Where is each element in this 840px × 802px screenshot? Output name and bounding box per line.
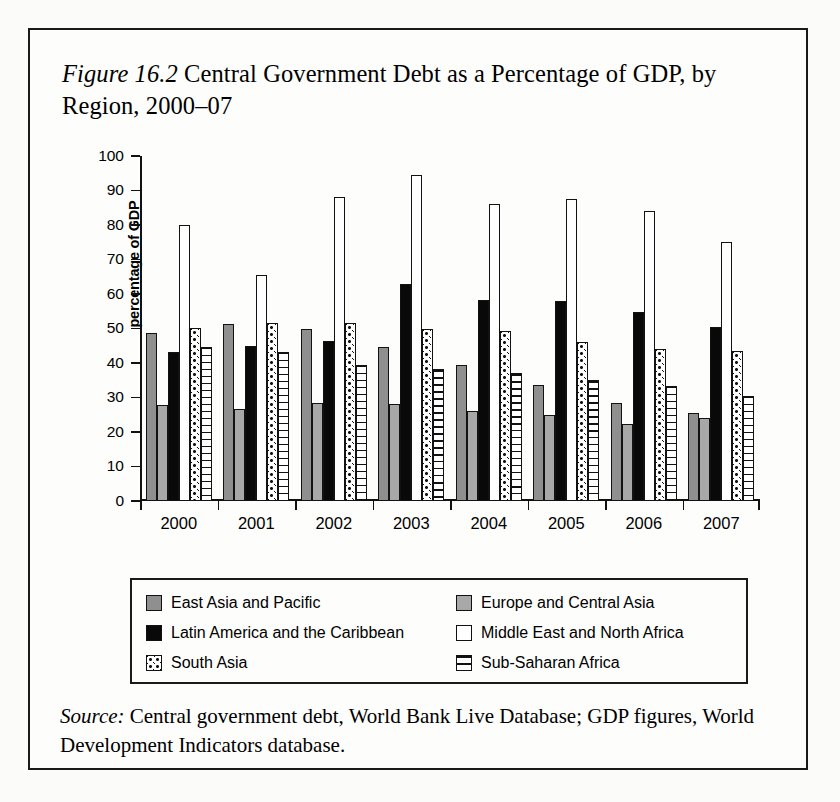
x-axis-tick [140,501,142,510]
y-axis-tick-label: 30 [107,388,124,406]
white-square-icon [456,625,472,641]
y-axis-tick: 30 [131,397,140,399]
figure-number: Figure 16.2 [62,60,178,87]
y-axis-tick: 60 [131,293,140,295]
bar-ssa-2002 [356,365,367,501]
bar-eca-2001 [234,409,245,501]
bar-lac-2003 [400,284,411,501]
legend-item-ssa[interactable]: Sub-Saharan Africa [456,654,738,672]
bar-lac-2006 [633,312,644,501]
bar-mena-2006 [644,211,655,501]
bar-eca-2000 [157,405,168,501]
bar-lac-2000 [168,352,179,501]
x-axis-tick-label: 2000 [160,514,197,533]
bar-mena-2002 [334,197,345,501]
y-axis-tick-label: 0 [115,492,124,510]
horizontal-striped-square-icon [456,655,472,671]
y-axis-line [140,156,142,501]
y-axis-tick: 40 [131,362,140,364]
y-axis-tick: 20 [131,431,140,433]
bar-ssa-2001 [278,352,289,501]
bar-mena-2001 [256,275,267,501]
legend-item-mena[interactable]: Middle East and North Africa [456,624,738,642]
bar-lac-2005 [555,301,566,501]
source-label: Source: [60,704,125,728]
source-note: Source: Central government debt, World B… [60,702,778,760]
legend-item-label: South Asia [171,654,248,672]
y-axis-tick-label: 20 [107,423,124,441]
bar-mena-2000 [179,225,190,501]
bar-eap-2001 [223,324,234,501]
x-axis-tick-label: 2002 [315,514,352,533]
x-axis-tick [605,501,607,510]
bar-ssa-2004 [511,373,522,501]
bar-eap-2002 [301,329,312,502]
figure-page: Figure 16.2 Central Government Debt as a… [0,0,840,802]
bar-mena-2004 [489,204,500,501]
legend-item-lac[interactable]: Latin America and the Caribbean [146,624,456,642]
light-gray-square-icon [456,595,472,611]
bar-mena-2005 [566,199,577,501]
bar-eap-2005 [533,385,544,501]
x-axis-tick [528,501,530,510]
black-square-icon [146,625,162,641]
y-axis-tick: 90 [131,190,140,192]
x-axis-tick [218,501,220,510]
y-axis-tick-label: 80 [107,216,124,234]
bar-eca-2002 [312,403,323,501]
y-axis-tick-label: 40 [107,354,124,372]
dotted-square-icon [146,655,162,671]
y-axis-tick: 80 [131,224,140,226]
x-axis-tick [373,501,375,510]
bar-ssa-2000 [201,347,212,501]
bar-mena-2007 [721,242,732,501]
x-axis-tick [450,501,452,510]
bar-eca-2007 [699,418,710,501]
legend-grid: East Asia and PacificEurope and Central … [146,588,738,678]
bar-eca-2003 [389,404,400,501]
legend-item-label: Latin America and the Caribbean [171,624,404,642]
figure-title: Figure 16.2 Central Government Debt as a… [62,58,762,122]
legend-item-label: Middle East and North Africa [481,624,684,642]
dark-gray-square-icon [146,595,162,611]
x-axis-tick [295,501,297,510]
x-axis-tick-label: 2005 [548,514,585,533]
y-axis-tick: 50 [131,328,140,330]
y-axis-tick: 100 [131,155,140,157]
bar-lac-2007 [710,327,721,501]
legend-item-sa[interactable]: South Asia [146,654,456,672]
bar-ssa-2003 [433,369,444,501]
x-axis-tick-label: 2007 [703,514,740,533]
chart-axes: 0102030405060708090100200020012002200320… [140,156,760,501]
bar-lac-2004 [478,300,489,501]
bar-eap-2006 [611,403,622,501]
y-axis-tick-label: 10 [107,457,124,475]
bar-sa-2007 [732,351,743,501]
y-axis-tick-label: 100 [98,147,124,165]
legend-item-label: Sub-Saharan Africa [481,654,620,672]
x-axis-tick-label: 2006 [625,514,662,533]
bar-sa-2001 [267,323,278,501]
legend-item-eap[interactable]: East Asia and Pacific [146,594,456,612]
x-axis-tick-label: 2003 [393,514,430,533]
source-text: Central government debt, World Bank Live… [60,704,754,757]
bar-eap-2000 [146,333,157,501]
bar-ssa-2005 [588,380,599,501]
bar-eap-2007 [688,413,699,501]
x-axis-tick-label: 2004 [470,514,507,533]
y-axis-tick: 10 [131,466,140,468]
x-axis-tick [683,501,685,510]
y-axis-tick-label: 70 [107,250,124,268]
chart-plot-area: percentage of GDP 0102030405060708090100… [62,138,778,538]
legend-item-label: Europe and Central Asia [481,594,654,612]
y-axis-tick-label: 60 [107,285,124,303]
bar-ssa-2007 [743,396,754,501]
y-axis-tick-label: 50 [107,319,124,337]
bar-eap-2004 [456,365,467,501]
y-axis-tick: 0 [131,500,140,502]
legend-item-eca[interactable]: Europe and Central Asia [456,594,738,612]
bar-sa-2006 [655,349,666,501]
bar-sa-2003 [422,329,433,502]
chart-legend: East Asia and PacificEurope and Central … [130,578,748,684]
x-axis-tick [758,501,760,510]
